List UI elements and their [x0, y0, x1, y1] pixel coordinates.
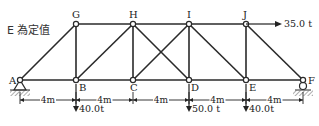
node-G [73, 21, 78, 26]
dimension-label: 4m [41, 95, 56, 105]
dimension-label: 4m [154, 95, 169, 105]
node-I [186, 21, 191, 26]
svg-text:40.0t: 40.0t [249, 103, 274, 114]
horizontal-load-J: 35.0 t [246, 18, 312, 29]
node-label-H: H [129, 9, 138, 20]
truss-members [20, 24, 303, 80]
node-label-G: G [72, 9, 80, 20]
truss-diagram: A B C D E F G H I J E 為定值 35.0 t 4m4m4m4… [0, 0, 319, 126]
node-label-C: C [130, 82, 138, 93]
node-label-B: B [79, 82, 86, 93]
material-note: E 為定值 [7, 23, 50, 37]
node-label-F: F [308, 75, 315, 86]
svg-text:50.0 t: 50.0 t [192, 103, 220, 114]
member-JF [246, 24, 303, 80]
node-E [243, 77, 248, 82]
member-BH [76, 24, 133, 80]
node-label-E: E [249, 82, 256, 93]
node-F [300, 77, 305, 82]
node-label-D: D [191, 82, 199, 93]
svg-text:40.0t: 40.0t [79, 103, 104, 114]
node-label-I: I [187, 9, 191, 20]
node-B [73, 77, 78, 82]
node-label-J: J [242, 9, 247, 20]
node-A [17, 77, 22, 82]
svg-text:35.0 t: 35.0 t [284, 18, 312, 29]
node-H [130, 21, 135, 26]
node-label-A: A [8, 75, 17, 86]
member-IE [189, 24, 246, 80]
